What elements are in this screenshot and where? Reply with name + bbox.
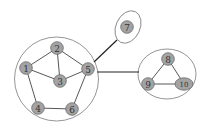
node-3: 3 <box>54 75 67 88</box>
node-label: 5 <box>85 65 91 75</box>
node-label: 2 <box>54 44 60 54</box>
node-label: 4 <box>35 104 41 114</box>
node-label: 9 <box>145 80 151 90</box>
node-7: 7 <box>121 21 134 34</box>
nodes-layer: 12345678910 <box>20 21 193 116</box>
node-1: 1 <box>20 62 33 75</box>
edges-layer <box>26 48 184 109</box>
node-label: 1 <box>23 64 29 74</box>
node-10: 10 <box>175 78 193 90</box>
link-group-a-group-b <box>94 40 117 62</box>
node-label: 6 <box>69 105 75 115</box>
node-label: 10 <box>180 81 189 89</box>
node-4: 4 <box>32 102 45 115</box>
group-links-layer <box>94 40 139 72</box>
node-5: 5 <box>82 63 95 76</box>
node-label: 8 <box>165 55 171 65</box>
node-label: 3 <box>57 77 63 87</box>
node-6: 6 <box>66 103 79 116</box>
node-8: 8 <box>162 53 175 66</box>
node-2: 2 <box>51 42 64 55</box>
node-label: 7 <box>124 23 130 33</box>
graph-diagram: 12345678910 <box>0 0 208 129</box>
node-9: 9 <box>142 78 155 91</box>
